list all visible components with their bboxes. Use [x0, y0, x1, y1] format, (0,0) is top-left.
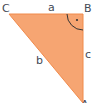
side-label-a: a [48, 1, 55, 14]
triangle-diagram: C a B c b A [0, 0, 96, 103]
vertex-label-b: B [84, 2, 92, 15]
triangle-shape [9, 14, 83, 103]
side-label-b: b [36, 54, 43, 67]
vertex-label-a: A [81, 98, 89, 103]
vertex-label-c: C [2, 2, 10, 15]
side-label-c: c [85, 48, 91, 61]
right-angle-dot [76, 19, 78, 21]
